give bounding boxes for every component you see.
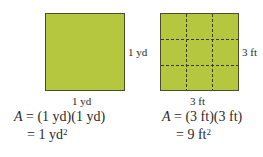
right-exponent: 2	[206, 127, 211, 137]
right-bottom-label: 3 ft	[190, 95, 205, 107]
right-equation-result: = 9 ft	[176, 127, 206, 142]
right-equation-line1: A = (3 ft)(3 ft)	[162, 109, 242, 125]
dashed-grid-lines	[0, 0, 263, 157]
area-variable: A	[162, 109, 171, 124]
right-side-label: 3 ft	[242, 46, 257, 58]
right-equation-expression: = (3 ft)(3 ft)	[171, 109, 243, 124]
right-equation-line2: = 9 ft2	[176, 127, 211, 143]
